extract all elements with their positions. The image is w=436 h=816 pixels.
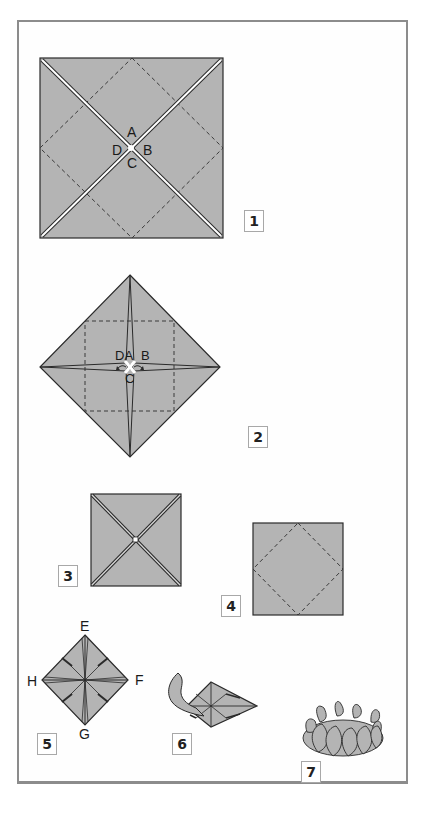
step-number-6: 6 <box>172 733 192 755</box>
step5-figure <box>42 635 128 725</box>
point-label-da: DA <box>115 349 133 363</box>
point-label-b: B <box>143 143 152 157</box>
point-label-d: D <box>112 143 122 157</box>
point-label-h: H <box>27 674 37 688</box>
step2-figure <box>40 275 220 457</box>
step-number-4: 4 <box>221 595 241 617</box>
step1-figure <box>40 58 223 238</box>
point-label-g: G <box>79 727 90 741</box>
point-label-c: C <box>127 156 137 170</box>
point-label-a: A <box>127 125 136 139</box>
step-number-1: 1 <box>244 210 264 232</box>
step-number-3: 3 <box>58 565 78 587</box>
step-number-7: 7 <box>301 761 321 783</box>
diagram-canvas <box>0 0 436 816</box>
step7-figure <box>303 701 383 756</box>
point-label-b: B <box>141 349 150 363</box>
step-number-5: 5 <box>37 733 57 755</box>
point-label-e: E <box>80 619 89 633</box>
point-label-c: C <box>125 372 134 386</box>
step4-figure <box>253 523 343 615</box>
step6-figure <box>169 673 257 727</box>
point-label-f: F <box>135 673 144 687</box>
step3-figure <box>91 494 181 586</box>
step-number-2: 2 <box>248 426 268 448</box>
